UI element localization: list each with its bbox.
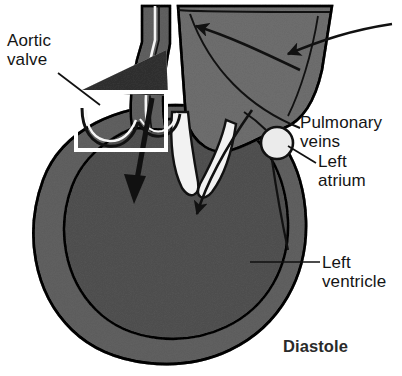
label-left-atrium: Left atrium bbox=[318, 152, 366, 190]
aortic-root-wedge bbox=[78, 50, 168, 96]
label-left-ventricle: Left ventricle bbox=[322, 253, 386, 291]
label-pulmonary-veins: Pulmonary veins bbox=[300, 113, 382, 151]
label-aortic-valve: Aortic valve bbox=[7, 31, 51, 69]
label-phase-diastole: Diastole bbox=[283, 337, 348, 356]
